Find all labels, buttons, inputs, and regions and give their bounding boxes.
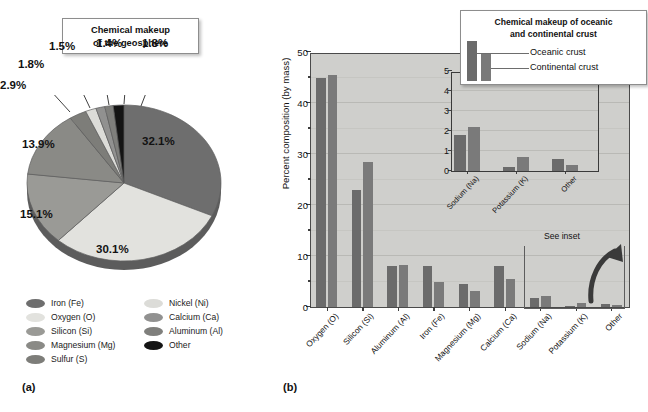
pie-label-aluminum: 1.4% — [96, 37, 122, 49]
bar — [506, 279, 516, 307]
x-tick-mark — [398, 307, 399, 311]
bar-title-line-1: Chemical makeup of oceanic — [465, 17, 642, 29]
legend-label-iron: Iron (Fe) — [51, 298, 84, 308]
legend-item-nickel[interactable]: Nickel (Ni) — [144, 296, 223, 310]
legend-swatch-silicon — [26, 327, 45, 336]
legend-label-magnesium: Magnesium (Mg) — [51, 340, 115, 350]
bar — [316, 78, 326, 308]
legend-swatch-magnesium — [26, 341, 45, 350]
x-tick-mark — [505, 307, 506, 311]
legend-item-oxygen[interactable]: Oxygen (O) — [26, 310, 115, 324]
x-tick-mark — [327, 307, 328, 311]
y-minor-tick-mark — [308, 76, 312, 77]
inset-y-tick-label: 3 — [444, 106, 449, 116]
x-tick-mark — [469, 307, 470, 311]
inset-bar — [552, 159, 564, 171]
x-tick-mark — [362, 307, 363, 311]
pie-label-iron: 32.1% — [142, 135, 175, 147]
key-bar-continental — [481, 54, 491, 81]
inset-y-tick-label: 0 — [444, 166, 449, 176]
legend-item-silicon[interactable]: Silicon (Si) — [26, 324, 115, 338]
y-minor-tick-mark — [308, 178, 312, 179]
legend-swatch-other — [144, 341, 163, 350]
pie-title-line-2: of the geosphere — [63, 37, 198, 50]
legend-item-other[interactable]: Other — [144, 338, 223, 352]
legend-label-other: Other — [169, 340, 191, 350]
x-tick-mark — [433, 307, 434, 311]
y-tick-label: 10 — [297, 251, 308, 262]
pie-label-sulfur: 2.9% — [0, 79, 26, 91]
inset-bar — [566, 165, 578, 171]
bar — [459, 284, 469, 307]
bar — [494, 266, 504, 307]
bar — [328, 75, 338, 307]
legend-item-aluminum[interactable]: Aluminum (Al) — [144, 324, 223, 338]
pie-legend-column-2: Nickel (Ni) Calcium (Ca) Aluminum (Al) O… — [144, 296, 223, 352]
legend-label-nickel: Nickel (Ni) — [169, 298, 209, 308]
bar — [387, 266, 397, 307]
inset-bar — [503, 167, 515, 171]
pie-legend-column-1: Iron (Fe) Oxygen (O) Silicon (Si) Magnes… — [26, 296, 115, 366]
inset-x-tick-mark — [516, 171, 517, 174]
pie-chart-graphic: 32.1% 30.1% 15.1% 13.9% 2.9% 1.8% 1.5% 1… — [14, 95, 234, 280]
key-label-oceanic: Oceanic crust — [530, 47, 586, 57]
legend-label-aluminum: Aluminum (Al) — [169, 326, 223, 336]
panel-label-b: (b) — [283, 381, 297, 393]
legend-label-silicon: Silicon (Si) — [51, 326, 92, 336]
pie-label-oxygen: 30.1% — [96, 243, 129, 255]
y-minor-tick-mark — [308, 229, 312, 230]
panel-label-a: (a) — [22, 381, 35, 393]
x-tick-label: Silicon (Si) — [341, 311, 375, 347]
pie-title-line-1: Chemical makeup — [63, 24, 198, 37]
y-tick-label: 40 — [297, 98, 308, 109]
legend-label-oxygen: Oxygen (O) — [51, 312, 95, 322]
inset-x-tick-mark — [467, 171, 468, 174]
pie-chart-title-box: Chemical makeup of the geosphere — [62, 18, 199, 54]
legend-label-sulfur: Sulfur (S) — [51, 354, 87, 364]
y-tick-label: 0 — [303, 302, 308, 313]
legend-swatch-iron — [26, 299, 45, 308]
x-tick-label: Sodium (Na) — [514, 311, 553, 352]
pie-label-calcium: 1.5% — [49, 40, 75, 52]
bar — [423, 266, 433, 307]
bar-chart-title-box: Chemical makeup of oceanic and continent… — [460, 10, 647, 85]
bar — [399, 265, 409, 307]
legend-item-sulfur[interactable]: Sulfur (S) — [26, 352, 115, 366]
legend-item-calcium[interactable]: Calcium (Ca) — [144, 310, 223, 324]
legend-swatch-calcium — [144, 313, 163, 322]
inset-gridline — [452, 110, 598, 111]
legend-swatch-aluminum — [144, 327, 163, 336]
y-tick-label: 20 — [297, 200, 308, 211]
key-leader-line-continental — [491, 68, 529, 69]
pie-label-other: 1.8% — [142, 37, 168, 49]
inset-pointer-arrow — [585, 243, 631, 305]
see-inset-label: See inset — [544, 231, 580, 241]
legend-item-magnesium[interactable]: Magnesium (Mg) — [26, 338, 115, 352]
x-tick-label: Other — [603, 311, 624, 333]
y-minor-tick-mark — [308, 127, 312, 128]
inset-y-tick-label: 4 — [444, 86, 449, 96]
y-tick-label: 50 — [297, 47, 308, 58]
legend-swatch-sulfur — [26, 355, 45, 364]
inset-y-tick-label: 1 — [444, 146, 449, 156]
legend-swatch-oxygen — [26, 313, 45, 322]
inset-y-tick-label: 2 — [444, 126, 449, 136]
legend-swatch-nickel — [144, 299, 163, 308]
bar — [363, 162, 373, 307]
pie-label-nickel: 1.8% — [18, 58, 44, 70]
legend-item-iron[interactable]: Iron (Fe) — [26, 296, 115, 310]
inset-bar — [517, 157, 529, 171]
x-tick-label: Calcium (Ca) — [478, 311, 518, 353]
inset-gridline — [452, 90, 598, 91]
legend-label-calcium: Calcium (Ca) — [169, 312, 219, 322]
x-tick-label: Oxygen (O) — [304, 311, 341, 349]
key-bar-oceanic — [467, 41, 477, 81]
pie-legend: Iron (Fe) Oxygen (O) Silicon (Si) Magnes… — [26, 296, 256, 366]
inset-y-tick-label: 5 — [444, 66, 449, 76]
panel-b-bar-chart: Percent composition (by mass) 0102030405… — [255, 0, 648, 412]
inset-x-tick-mark — [565, 171, 566, 174]
key-sample-bars — [467, 39, 503, 81]
inset-bar — [468, 127, 480, 171]
bar — [434, 282, 444, 308]
key-label-continental: Continental crust — [530, 62, 598, 72]
